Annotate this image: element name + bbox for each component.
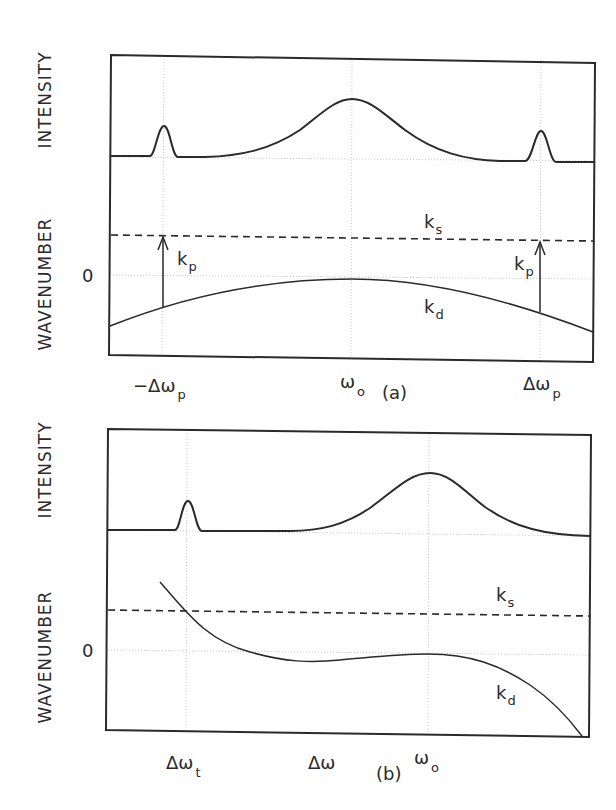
y-axis-label-intensity-a: INTENSITY	[35, 51, 55, 148]
x-tick-dwp: Δωp	[523, 373, 561, 401]
ks-label-a: ks	[424, 211, 442, 237]
ks-line-a	[111, 235, 593, 241]
zero-tick-b: 0	[82, 640, 93, 661]
panel-a: INTENSITY WAVENUMBER 0 ks kd kp kp −Δωp …	[35, 51, 595, 403]
figure-canvas: INTENSITY WAVENUMBER 0 ks kd kp kp −Δωp …	[0, 0, 616, 810]
kp-label-right: kp	[514, 253, 534, 279]
x-tick-w0-a: ωo	[340, 371, 365, 399]
grid-line-dwt	[186, 430, 187, 731]
grid-line-w0	[351, 58, 352, 359]
panel-b-caption: (b)	[376, 763, 401, 784]
x-tick-dw: Δω	[308, 752, 335, 773]
y-axis-label-intensity-b: INTENSITY	[35, 421, 55, 518]
panel-a-caption: (a)	[382, 382, 407, 403]
y-axis-label-wavenumber-b: WAVENUMBER	[35, 591, 55, 724]
intensity-curve-a	[111, 99, 594, 162]
ks-line-b	[108, 610, 590, 616]
x-tick-w0-b: ωo	[414, 747, 439, 775]
kd-label-b: kd	[496, 682, 516, 708]
ks-label-b: ks	[496, 584, 514, 610]
kp-label-left: kp	[177, 248, 197, 274]
kd-curve-b	[160, 582, 582, 736]
kp-arrow-right	[535, 242, 545, 312]
grid-line-neg-dwp	[162, 56, 164, 356]
kp-arrow-left	[158, 237, 168, 307]
kd-label-a: kd	[424, 296, 444, 322]
y-axis-label-wavenumber-a: WAVENUMBER	[35, 218, 55, 351]
x-tick-neg-dwp: −Δωp	[133, 375, 186, 402]
panel-b-frame	[106, 429, 591, 737]
panel-b: INTENSITY WAVENUMBER 0 ks kd Δωt Δω ωo (…	[35, 421, 591, 784]
zero-tick-a: 0	[82, 265, 93, 286]
grid-line-w0-b	[428, 434, 429, 735]
grid-line-intensity-baseline-b	[108, 530, 590, 536]
grid-line-zero-b	[108, 650, 590, 655]
intensity-curve-b	[108, 473, 590, 536]
grid-line-dwp	[540, 60, 541, 361]
x-tick-dwt: Δωt	[166, 752, 201, 780]
